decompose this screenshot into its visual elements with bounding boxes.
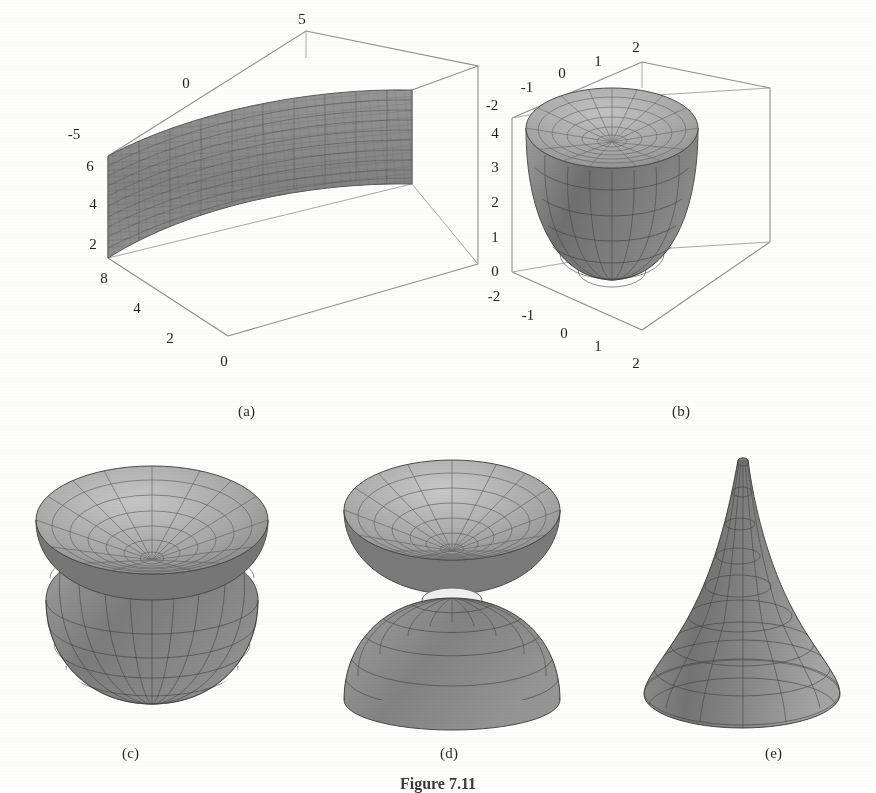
- tick-b-bot-n1: -1: [522, 307, 535, 323]
- tick-b-bot-0: 0: [560, 325, 568, 341]
- tick-a-top-0: -5: [68, 126, 81, 142]
- tick-a-z-2: 2: [89, 236, 97, 252]
- caption-b: (b): [672, 403, 690, 420]
- tick-b-z-0: 0: [491, 263, 499, 279]
- caption-d: (d): [440, 745, 458, 762]
- tick-a-y-4: 4: [133, 300, 141, 316]
- panel-b-elliptic-paraboloid: -2 -1 0 1 2 4 3 2 1 0 -2 -1 0 1 2: [470, 30, 800, 400]
- tick-b-top-n1: -1: [521, 79, 534, 95]
- panel-a-vertical-axis-ticks: 6 4 2: [86, 158, 97, 252]
- tick-a-top-1: 0: [182, 75, 190, 91]
- tick-b-bot-n2: -2: [488, 288, 501, 304]
- tick-a-z-4: 4: [89, 196, 97, 212]
- caption-c: (c): [122, 745, 139, 762]
- tick-a-y-2: 2: [166, 330, 174, 346]
- panel-a-parabolic-cylinder: -5 0 5 6 4 2 8 4 2 0: [60, 6, 480, 396]
- caption-a: (a): [238, 403, 255, 420]
- panel-b-bottom-axis-ticks: -2 -1 0 1 2: [488, 288, 640, 371]
- tick-a-y-8: 8: [100, 270, 108, 286]
- tick-b-z-4: 4: [491, 125, 499, 141]
- panel-e-pseudosphere: [618, 446, 868, 741]
- tick-b-z-3: 3: [491, 159, 499, 175]
- tick-a-top-2: 5: [298, 11, 306, 27]
- tick-b-top-n2: -2: [486, 97, 499, 113]
- panel-c-hyperboloid-two-sheets: [10, 448, 300, 738]
- tick-b-bot-1: 1: [594, 338, 602, 354]
- figure-caption: Figure 7.11: [0, 775, 876, 793]
- tick-a-y-0: 0: [220, 353, 228, 369]
- panel-b-vertical-axis-ticks: 4 3 2 1 0: [491, 125, 499, 279]
- panel-a-depth-axis-ticks: 8 4 2 0: [100, 270, 228, 369]
- tick-a-z-6: 6: [86, 158, 94, 174]
- tick-b-top-1: 1: [594, 53, 602, 69]
- tick-b-z-1: 1: [491, 229, 499, 245]
- tick-b-bot-2: 2: [632, 355, 640, 371]
- panel-b-surface: [526, 88, 698, 287]
- tick-b-z-2: 2: [491, 194, 499, 210]
- caption-e: (e): [765, 745, 782, 762]
- panel-a-mesh: [100, 84, 420, 266]
- panel-a-svg: -5 0 5 6 4 2 8 4 2 0: [60, 6, 480, 396]
- tick-b-top-2: 2: [632, 39, 640, 55]
- panel-e-svg: [618, 446, 868, 741]
- panel-b-svg: -2 -1 0 1 2 4 3 2 1 0 -2 -1 0 1 2: [470, 30, 800, 400]
- panel-c-svg: [10, 448, 300, 738]
- tick-b-top-0: 0: [558, 65, 566, 81]
- panel-c-upper-sheet: [36, 466, 268, 600]
- panel-d-upper-sheet: [344, 460, 560, 594]
- panel-e-surface: [644, 458, 840, 738]
- panel-d-svg: [320, 448, 590, 738]
- panel-d-hyperboloid-separated: [320, 448, 590, 738]
- panel-a-surface: [100, 84, 420, 266]
- panel-d-lower-sheet: [344, 598, 560, 730]
